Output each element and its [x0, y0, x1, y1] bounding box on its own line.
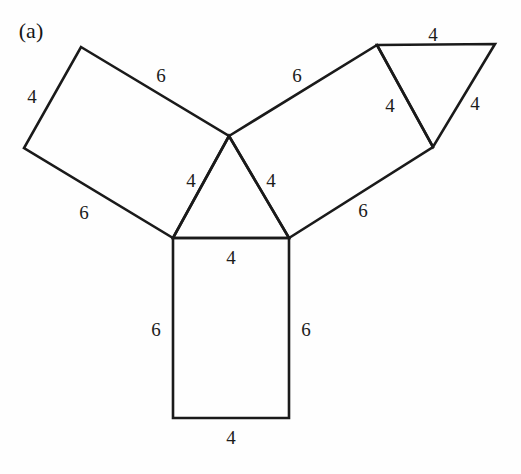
edge-length-label-central-triangle-base: 4 — [226, 248, 236, 267]
edge-length-label-bottom-rect-right: 6 — [301, 320, 311, 339]
edge-length-label-bottom-rect-bottom: 4 — [226, 428, 236, 447]
geometry-net-drawing — [0, 0, 521, 474]
edge-length-label-upper-right-rect-long-upper: 6 — [292, 66, 302, 85]
edge-length-label-upper-triangle-top: 4 — [428, 25, 438, 44]
edge-length-label-upper-triangle-left: 4 — [385, 96, 395, 115]
edge-length-label-upper-triangle-right: 4 — [470, 94, 480, 113]
left-rectangle — [24, 47, 229, 238]
edge-length-label-central-triangle-left: 4 — [186, 171, 196, 190]
edge-length-label-left-rect-long-upper: 6 — [156, 66, 166, 85]
edge-length-label-central-triangle-right: 4 — [266, 171, 276, 190]
panel-label: (a) — [19, 20, 43, 42]
upper-right-rectangle — [229, 45, 433, 238]
figure-panel-a: (a) 46666444444664 — [0, 0, 521, 474]
edge-length-label-left-rect-short-upper: 4 — [27, 87, 37, 106]
edge-length-label-bottom-rect-left: 6 — [151, 320, 161, 339]
edge-length-label-upper-right-rect-long-lower: 6 — [358, 201, 368, 220]
edge-length-label-left-rect-long-lower: 6 — [79, 203, 89, 222]
